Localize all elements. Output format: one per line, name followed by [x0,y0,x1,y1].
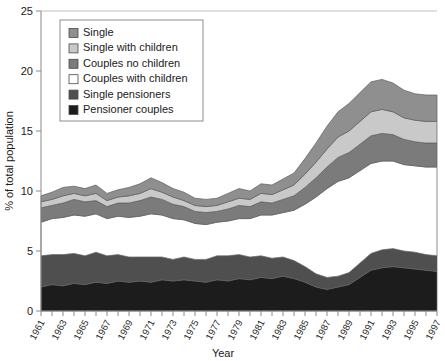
x-tick-label: 1973 [159,318,179,342]
x-tick-label: 1995 [401,318,421,342]
x-tick-group: 1961196319651967196919711973197519771979… [27,311,443,342]
x-axis-title: Year [212,347,235,359]
x-tick-label: 1987 [313,318,333,342]
x-tick-label: 1975 [181,318,201,342]
x-tick-label: 1983 [269,318,289,342]
x-tick-label: 1981 [247,318,267,342]
x-tick-label: 1965 [71,318,91,342]
chart-container: 0510152025 19611963196519671969197119731… [0,0,445,361]
legend-label-single: Single [83,26,114,38]
y-tick-label: 10 [21,185,33,197]
y-tick-label: 15 [21,125,33,137]
legend-swatch-single [69,29,78,38]
legend-swatch-pensioner-couples [69,106,78,115]
chart-legend: SingleSingle with childrenCouples no chi… [60,20,203,121]
x-tick-label: 1993 [379,318,399,342]
legend-label-pensioner-couples: Pensioner couples [83,103,174,115]
legend-label-single-with-children: Single with children [83,41,178,53]
x-tick-label: 1961 [27,318,47,342]
y-tick-label: 25 [21,5,33,17]
x-tick-label: 1979 [225,318,245,342]
y-tick-label: 5 [27,245,33,257]
legend-label-couples-with-children: Couples with children [83,72,188,84]
legend-label-single-pensioners: Single pensioners [83,88,171,100]
x-tick-label: 1991 [357,318,377,342]
legend-swatch-single-pensioners [69,90,78,99]
x-tick-label: 1969 [115,318,135,342]
y-axis-title: % of total population [3,111,15,211]
y-tick-label: 0 [27,305,33,317]
legend-label-couples-no-children: Couples no children [83,57,180,69]
legend-swatch-single-with-children [69,44,78,53]
x-tick-label: 1985 [291,318,311,342]
x-tick-label: 1989 [335,318,355,342]
x-tick-label: 1997 [423,318,443,342]
stacked-area-chart: 0510152025 19611963196519671969197119731… [0,0,445,361]
x-tick-label: 1971 [137,318,157,342]
legend-swatch-couples-with-children [69,75,78,84]
legend-swatch-couples-no-children [69,59,78,68]
x-tick-label: 1967 [93,318,113,342]
x-tick-label: 1963 [49,318,69,342]
y-tick-group: 0510152025 [21,5,41,317]
y-tick-label: 20 [21,65,33,77]
x-tick-label: 1977 [203,318,223,342]
